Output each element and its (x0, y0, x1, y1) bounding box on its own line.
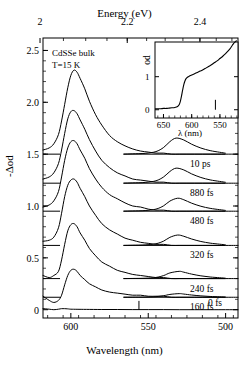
figure-transient-absorption-spectra: Energy (eV) Wavelength (nm) -Δod CdSSe b… (0, 0, 249, 366)
bottom-tick-label-1: 550 (141, 322, 156, 332)
bottom-tick-label-0: 600 (63, 322, 78, 332)
inset-x-tick-label-1: 600 (185, 120, 199, 130)
trace-label-320-fs: 320 fs (190, 250, 214, 260)
inset-y-tick-label-1: 1 (145, 72, 150, 82)
top-tick-label-1: 2.2 (121, 17, 134, 27)
trace-label-880-fs: 880 fs (190, 188, 214, 198)
trace-label-480-fs: 480 fs (190, 216, 214, 226)
bottom-tick-label-2: 500 (218, 322, 233, 332)
magnified-feature-320-fs (123, 235, 225, 245)
y-tick-label-1: 0.5 (6, 252, 39, 263)
trace-label-240-fs: 240 fs (190, 284, 214, 294)
trace-880-fs (43, 110, 238, 183)
y-tick-label-5: 2.5 (6, 45, 39, 56)
trace-label-10-ps: 10 ps (190, 159, 210, 169)
y-tick-label-3: 1.5 (6, 149, 39, 160)
inset-y-tick-label-0: 0 (145, 105, 150, 115)
magnified-feature-480-fs (123, 198, 225, 211)
trace-label-0-fs: 0 fs (208, 298, 222, 308)
inset-x-tick-label-0: 650 (157, 120, 171, 130)
y-tick-label-2: 1.0 (6, 201, 39, 212)
magnified-feature-880-fs (123, 168, 225, 183)
inset-x-tick-label-2: 550 (213, 120, 227, 130)
magnified-feature-10-ps (123, 138, 225, 154)
y-tick-label-0: 0 (6, 304, 39, 315)
top-tick-label-2: 2.4 (194, 17, 207, 27)
top-tick-label-0: 2 (38, 17, 43, 27)
y-tick-label-4: 2.0 (6, 97, 39, 108)
